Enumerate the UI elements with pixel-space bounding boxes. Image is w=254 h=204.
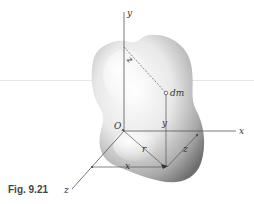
y-axis-label: y bbox=[126, 8, 133, 18]
y-distance-label: y bbox=[161, 118, 168, 128]
irregular-body bbox=[92, 35, 204, 183]
origin-label: O bbox=[114, 121, 122, 131]
mass-element-point bbox=[164, 91, 168, 95]
z-axis-label: z bbox=[63, 185, 69, 195]
x-axis-label: x bbox=[239, 126, 244, 136]
body-highlight-lower bbox=[113, 129, 157, 161]
r-distance-label: r bbox=[142, 144, 147, 154]
z-distance-label: z bbox=[182, 144, 188, 154]
mass-element-label: dm bbox=[170, 88, 184, 98]
figure-caption: Fig. 9.21 bbox=[8, 184, 48, 195]
body-highlight-upper bbox=[103, 49, 147, 101]
rigid-body-diagram: y x z O dm y r z x z Fig. 9.21 bbox=[0, 0, 254, 204]
x-distance-label: x bbox=[125, 161, 130, 171]
